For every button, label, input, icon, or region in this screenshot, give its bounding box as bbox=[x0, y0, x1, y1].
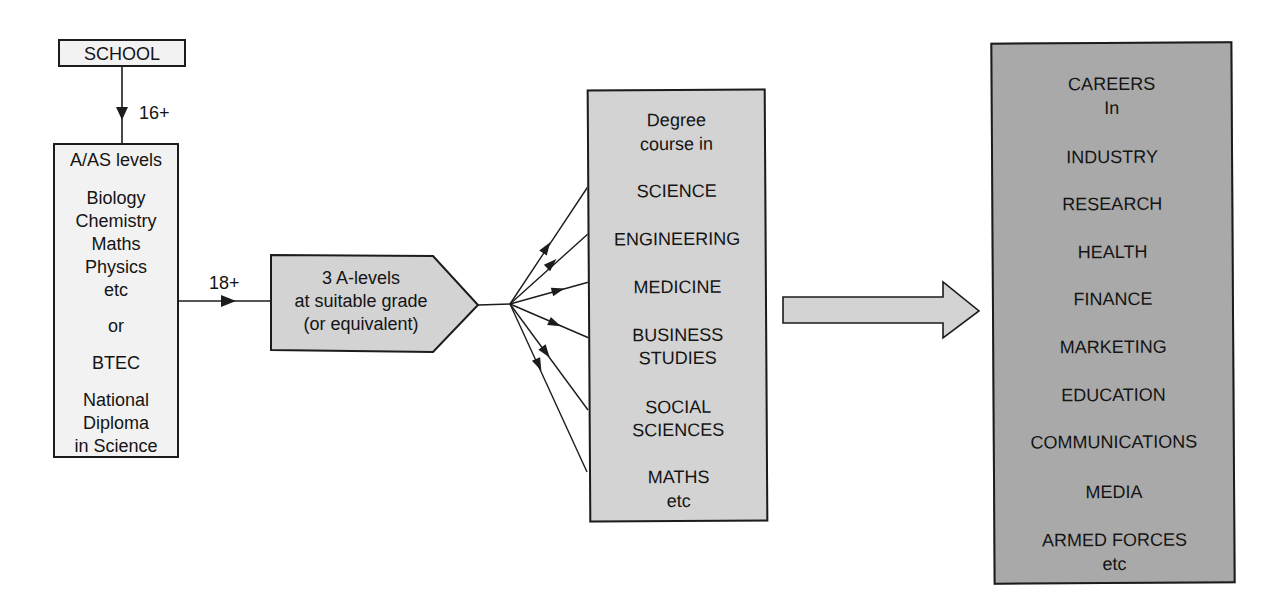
career-field: EDUCATION bbox=[994, 383, 1232, 406]
career-field: INDUSTRY bbox=[993, 145, 1231, 168]
careers-box: CAREERS In INDUSTRY RESEARCH HEALTH FINA… bbox=[990, 41, 1235, 584]
degree-subject-medicine: MEDICINE bbox=[590, 275, 765, 298]
fan-arrows bbox=[510, 185, 589, 472]
alevels-subject: Chemistry bbox=[55, 210, 177, 232]
age-18-label: 18+ bbox=[209, 272, 240, 294]
degree-subject-maths: etc bbox=[591, 489, 766, 512]
arrowhead-icon bbox=[547, 317, 563, 330]
degree-heading: course in bbox=[589, 132, 764, 155]
arrow-school-to-alevels bbox=[116, 67, 128, 143]
career-field: COMMUNICATIONS bbox=[995, 430, 1233, 453]
career-field: etc bbox=[995, 552, 1233, 575]
alevels-diploma: Diploma bbox=[55, 412, 177, 434]
degree-subject-social-sciences: SCIENCES bbox=[591, 418, 766, 441]
alevels-box: A/AS levels Biology Chemistry Maths Phys… bbox=[53, 143, 179, 458]
alevels-heading: A/AS levels bbox=[55, 149, 177, 171]
alevels-subject: etc bbox=[55, 279, 177, 301]
degree-subject-business: STUDIES bbox=[590, 346, 765, 369]
requirement-line: (or equivalent) bbox=[271, 313, 451, 335]
degree-subject-science: SCIENCE bbox=[589, 179, 764, 202]
degree-subject-engineering: ENGINEERING bbox=[590, 227, 765, 250]
alevels-subject: Maths bbox=[55, 233, 177, 255]
fan-stem bbox=[478, 304, 510, 305]
career-field: MEDIA bbox=[995, 480, 1233, 503]
arrowhead-icon bbox=[544, 256, 560, 271]
career-field: MARKETING bbox=[994, 335, 1232, 358]
alevels-subject: Physics bbox=[55, 256, 177, 278]
big-right-arrow-icon bbox=[783, 282, 979, 338]
alevels-diploma: National bbox=[55, 389, 177, 411]
school-label: SCHOOL bbox=[60, 43, 184, 65]
career-field: HEALTH bbox=[994, 240, 1232, 263]
alevels-btec: BTEC bbox=[55, 352, 177, 374]
requirement-line: at suitable grade bbox=[271, 290, 451, 312]
degree-subject-social-sciences: SOCIAL bbox=[591, 395, 766, 418]
degree-heading: Degree bbox=[589, 108, 764, 131]
alevels-or: or bbox=[55, 315, 177, 337]
career-field: RESEARCH bbox=[993, 192, 1231, 215]
degree-subject-business: BUSINESS bbox=[590, 323, 765, 346]
careers-heading: CAREERS bbox=[993, 72, 1231, 95]
degree-box: Degree course in SCIENCE ENGINEERING MED… bbox=[587, 88, 769, 522]
career-field: ARMED FORCES bbox=[995, 528, 1233, 551]
careers-heading: In bbox=[993, 96, 1231, 119]
arrow-alevels-to-requirement bbox=[179, 295, 272, 307]
school-box: SCHOOL bbox=[58, 39, 186, 67]
arrowhead-icon bbox=[551, 284, 566, 296]
fan-arrowheads bbox=[532, 240, 566, 373]
career-field: FINANCE bbox=[994, 287, 1232, 310]
alevels-subject: Biology bbox=[55, 187, 177, 209]
requirement-line: 3 A-levels bbox=[271, 267, 451, 289]
degree-subject-maths: MATHS bbox=[591, 465, 766, 488]
arrowhead-down-icon bbox=[116, 107, 128, 120]
arrowhead-icon bbox=[532, 357, 546, 373]
alevels-diploma: in Science bbox=[55, 435, 177, 457]
arrowhead-right-icon bbox=[221, 295, 236, 307]
age-16-label: 16+ bbox=[139, 102, 170, 124]
